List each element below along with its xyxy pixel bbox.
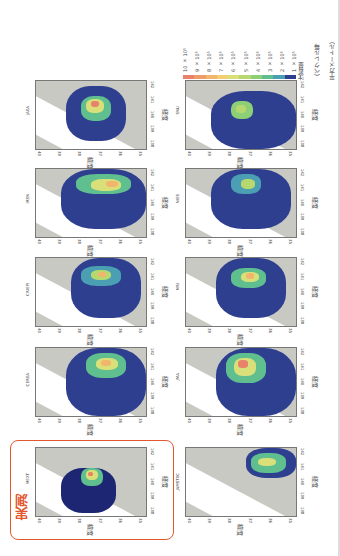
lon-tick: 138 <box>300 407 305 415</box>
lon-tick: 141 <box>150 183 155 191</box>
lon-tick: 140 <box>150 198 155 206</box>
lat-tick: 38 <box>227 518 232 523</box>
lon-tick: 138 <box>150 317 155 325</box>
lat-tick: 35 <box>288 418 293 423</box>
cb-label: 7 × 10⁵ <box>218 20 224 72</box>
lat-tick: 39 <box>207 518 212 523</box>
latitude-axis-label: 緯度 <box>236 334 245 346</box>
deposition-area <box>106 181 118 187</box>
cb-label: 6 × 10⁵ <box>230 20 236 72</box>
lon-tick: 139 <box>150 213 155 221</box>
longitude-axis-label: 経度 <box>311 109 320 121</box>
deposition-area <box>258 458 276 466</box>
lat-tick: 36 <box>118 518 123 523</box>
lon-tick: 140 <box>150 377 155 385</box>
lat-tick: 36 <box>118 151 123 156</box>
deposition-area <box>216 258 286 318</box>
longitude-axis-label: 経度 <box>161 109 170 121</box>
latitude-ticks: 403938373635 <box>37 418 143 423</box>
map-panel-jamstec <box>185 447 297 517</box>
map-panel-mext <box>35 447 147 517</box>
longitude-ticks: 142141140139138 <box>149 259 157 323</box>
deposition-area <box>246 273 254 279</box>
lon-tick: 141 <box>150 95 155 103</box>
lat-tick: 39 <box>57 418 62 423</box>
lat-tick: 36 <box>268 518 273 523</box>
panel-title-snu: SNU <box>175 106 180 114</box>
longitude-ticks: 142141140139138 <box>299 259 307 323</box>
lat-tick: 37 <box>248 151 253 156</box>
latitude-axis-label: 緯度 <box>86 524 95 536</box>
longitude-ticks: 142141140139138 <box>299 349 307 413</box>
lon-tick: 141 <box>150 272 155 280</box>
lat-tick: 39 <box>57 328 62 333</box>
lon-tick: 142 <box>150 169 155 177</box>
lon-tick: 142 <box>300 258 305 266</box>
longitude-axis-label: 経度 <box>311 476 320 488</box>
lon-tick: 141 <box>300 362 305 370</box>
cb-unit-line: 平方メートル） <box>327 18 336 80</box>
lat-tick: 36 <box>268 328 273 333</box>
lat-tick: 40 <box>37 239 42 244</box>
lon-tick: 139 <box>300 213 305 221</box>
panel-title-jaea: JAEA <box>25 106 30 115</box>
longitude-ticks: 142141140139138 <box>299 449 307 513</box>
latitude-ticks: 403938373635 <box>187 418 293 423</box>
map-panel-mri <box>185 257 297 327</box>
lat-tick: 37 <box>98 328 103 333</box>
lon-tick: 140 <box>150 477 155 485</box>
lat-tick: 39 <box>57 518 62 523</box>
lat-tick: 36 <box>118 418 123 423</box>
deposition-area <box>88 472 93 476</box>
deposition-area <box>236 105 246 113</box>
latitude-axis-label: 緯度 <box>236 524 245 536</box>
lon-tick: 139 <box>150 392 155 400</box>
lat-tick: 35 <box>288 518 293 523</box>
cb-label: 2 × 10⁵ <box>279 20 285 72</box>
longitude-ticks: 142141140139138 <box>149 449 157 513</box>
lat-tick: 38 <box>77 151 82 156</box>
lat-tick: 37 <box>248 418 253 423</box>
latitude-ticks: 403938373635 <box>37 151 143 156</box>
lon-tick: 142 <box>300 348 305 356</box>
lat-tick: 40 <box>187 418 192 423</box>
colorbar-labels: 10 × 10⁵ 9 × 10⁵ 8 × 10⁵ 7 × 10⁵ 6 × 10⁵… <box>182 20 297 72</box>
lon-tick: 139 <box>150 125 155 133</box>
lat-tick: 38 <box>227 239 232 244</box>
lat-tick: 38 <box>227 151 232 156</box>
lat-tick: 38 <box>227 418 232 423</box>
lat-tick: 36 <box>268 239 273 244</box>
lat-tick: 35 <box>288 151 293 156</box>
latitude-ticks: 403938373635 <box>187 518 293 523</box>
lon-tick: 138 <box>150 228 155 236</box>
cb-label: 10 × 10⁵ <box>182 20 188 72</box>
lat-tick: 35 <box>138 239 143 244</box>
measured-label: 実測 <box>12 494 31 520</box>
lon-tick: 142 <box>150 258 155 266</box>
lon-tick: 139 <box>300 392 305 400</box>
panel-title-nies: NIES <box>175 194 180 203</box>
lon-tick: 138 <box>300 228 305 236</box>
latitude-axis-label: 緯度 <box>236 245 245 257</box>
colorbar-unit: 沈着量 （ベクレル毎 平方メートル） <box>296 18 336 80</box>
map-panel-jma <box>185 347 297 417</box>
lon-tick: 141 <box>300 183 305 191</box>
longitude-ticks: 142141140139138 <box>299 170 307 234</box>
panel-title-criepi: CRIEPI <box>25 283 30 296</box>
lon-tick: 139 <box>300 302 305 310</box>
lat-tick: 35 <box>288 328 293 333</box>
panel-title-mext: MEXT <box>25 473 30 484</box>
lat-tick: 39 <box>207 239 212 244</box>
lat-tick: 39 <box>207 418 212 423</box>
lat-tick: 40 <box>37 518 42 523</box>
map-panel-irsn <box>35 168 147 238</box>
cb-label: 9 × 10⁵ <box>194 20 200 72</box>
lon-tick: 138 <box>300 507 305 515</box>
lat-tick: 37 <box>98 418 103 423</box>
lon-tick: 139 <box>150 302 155 310</box>
panel-title-mri: MRI <box>175 283 180 290</box>
lat-tick: 36 <box>268 151 273 156</box>
latitude-axis-label: 緯度 <box>236 157 245 169</box>
longitude-ticks: 142141140139138 <box>149 170 157 234</box>
colorbar <box>183 75 296 79</box>
